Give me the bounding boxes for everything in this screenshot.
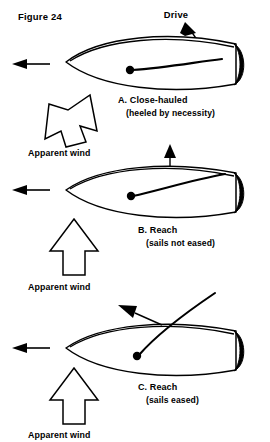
panel-title-c: C. Reach	[138, 382, 177, 392]
travel-direction-arrow-b	[12, 185, 50, 195]
apparent-wind-arrow-c	[50, 368, 98, 424]
apparent-wind-arrow-a	[45, 95, 97, 147]
panel-reach-eased: Apparent wind C. Reach (sails eased)	[12, 293, 244, 440]
figure-24-illustration: Figure 24 Drive	[0, 0, 270, 442]
hull-outline-a	[66, 37, 236, 90]
panel-subtitle-b: (sails not eased)	[146, 238, 215, 248]
mast-c	[133, 352, 141, 360]
panel-title-b: B. Reach	[138, 225, 177, 235]
panel-title-a: A. Close-hauled	[118, 95, 188, 105]
travel-direction-arrow-a	[12, 59, 50, 69]
mast-a	[126, 66, 134, 74]
mast-b	[127, 192, 135, 200]
apparent-wind-label-b: Apparent wind	[28, 282, 90, 292]
panel-reach-not-eased: Apparent wind B. Reach (sails not eased)	[12, 144, 244, 292]
hull-outline-c	[66, 324, 236, 375]
panel-close-hauled: Drive Appar	[12, 9, 244, 158]
apparent-wind-arrow-b	[50, 219, 98, 275]
apparent-wind-label-a: Apparent wind	[28, 148, 90, 158]
drive-label: Drive	[164, 9, 188, 20]
figure-caption: Figure 24	[18, 11, 63, 22]
apparent-wind-label-c: Apparent wind	[28, 430, 90, 440]
travel-direction-arrow-c	[12, 343, 50, 353]
sailing-diagram-canvas: Figure 24 Drive	[0, 0, 270, 442]
panel-subtitle-a: (heeled by necessity)	[126, 108, 215, 118]
panel-subtitle-c: (sails eased)	[146, 395, 199, 405]
drive-force-arrow-c	[118, 305, 162, 325]
